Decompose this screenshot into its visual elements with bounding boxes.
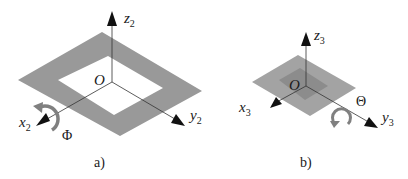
z-axis-label: z3 <box>313 27 325 46</box>
panel-a: O z2 y2 x2 Φ a) <box>18 10 202 171</box>
caption-a: a) <box>94 155 105 171</box>
x-axis-arrowhead <box>36 113 50 126</box>
rotation-label-phi: Φ <box>62 128 72 143</box>
z-axis-label: z2 <box>123 10 135 29</box>
y-axis-label: y2 <box>188 107 202 126</box>
z-axis-arrowhead <box>301 32 311 46</box>
y-axis-label: y3 <box>380 109 394 128</box>
panel-b: O z3 y3 x3 Θ b) <box>238 27 394 171</box>
x-axis-arrowhead <box>270 97 282 108</box>
rotation-arrow-theta-icon <box>330 109 350 128</box>
caption-b: b) <box>300 155 312 171</box>
x-axis-label: x3 <box>238 99 251 118</box>
figure: O z2 y2 x2 Φ a) O <box>0 0 408 179</box>
y-axis-arrowhead <box>364 117 378 128</box>
z-axis-arrowhead <box>107 11 117 26</box>
rotation-label-theta: Θ <box>356 94 366 109</box>
origin-label: O <box>289 77 300 93</box>
y-axis-arrowhead <box>171 114 185 126</box>
origin-label: O <box>94 72 105 88</box>
x-axis-label: x2 <box>18 114 31 133</box>
